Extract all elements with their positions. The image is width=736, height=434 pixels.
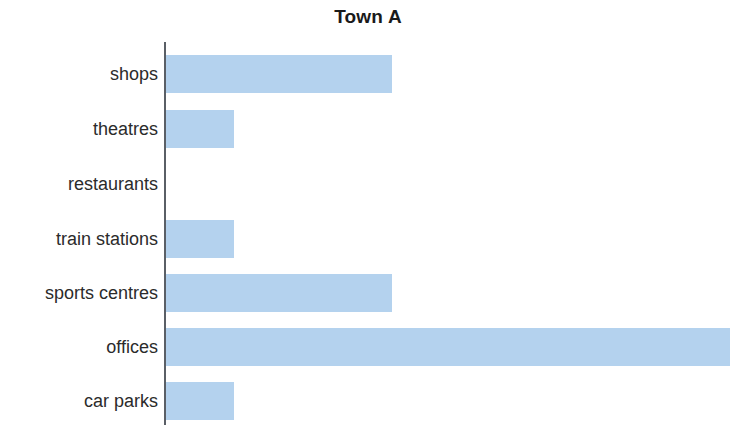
category-label: offices — [106, 328, 158, 366]
bar-track — [166, 274, 392, 312]
bar-track — [166, 110, 234, 148]
bar-car-parks — [166, 382, 234, 420]
category-label: sports centres — [45, 274, 158, 312]
plot-area: shops theatres restaurants train station… — [0, 42, 736, 426]
bar-row: theatres — [0, 110, 736, 148]
bar-row: offices — [0, 328, 736, 366]
category-label: theatres — [93, 110, 158, 148]
bar-track — [166, 382, 234, 420]
chart-title: Town A — [0, 6, 736, 28]
bar-theatres — [166, 110, 234, 148]
bar-sports-centres — [166, 274, 392, 312]
bar-track — [166, 55, 392, 93]
bar-row: shops — [0, 55, 736, 93]
bar-train-stations — [166, 220, 234, 258]
bar-chart: Town A shops theatres restaurants train … — [0, 0, 736, 434]
bar-shops — [166, 55, 392, 93]
category-label: train stations — [56, 220, 158, 258]
bar-row: train stations — [0, 220, 736, 258]
bar-row: restaurants — [0, 165, 736, 203]
bar-track — [166, 328, 730, 366]
category-label: restaurants — [68, 165, 158, 203]
bar-offices — [166, 328, 730, 366]
bar-row: car parks — [0, 382, 736, 420]
bar-track — [166, 220, 234, 258]
bar-row: sports centres — [0, 274, 736, 312]
category-label: car parks — [84, 382, 158, 420]
category-label: shops — [110, 55, 158, 93]
